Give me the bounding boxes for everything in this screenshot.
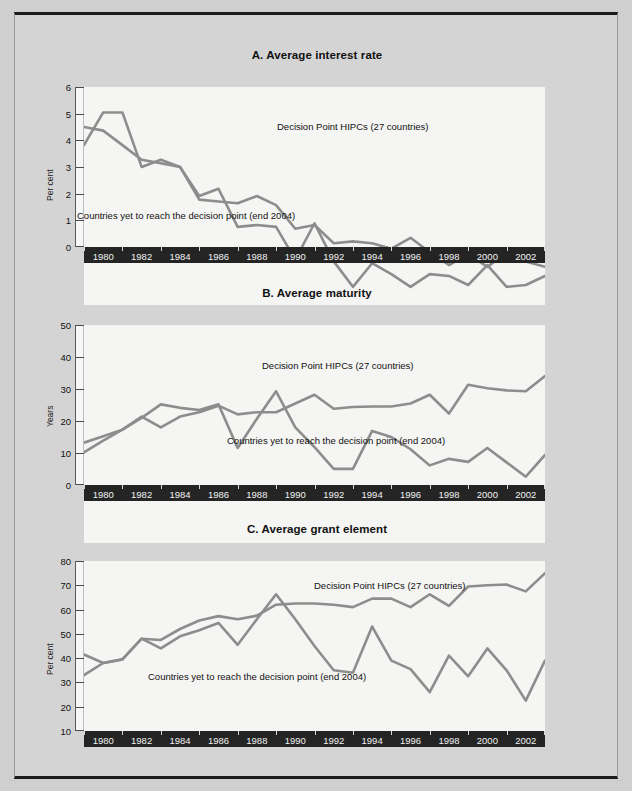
x-tick-mark	[122, 485, 123, 489]
series-line-1	[84, 112, 545, 266]
x-tick-label: 1992	[323, 489, 344, 500]
x-tick-label: 1996	[400, 489, 421, 500]
panel-b-title: B. Average maturity	[15, 287, 619, 299]
x-tick-label: 1982	[131, 735, 152, 746]
panel-b-y-axis	[75, 325, 84, 485]
x-tick-mark	[353, 485, 354, 489]
x-tick-label: 1988	[246, 489, 267, 500]
x-tick-label: 1988	[246, 735, 267, 746]
x-tick-label: 1980	[93, 489, 114, 500]
panel-c-note-top: Decision Point HIPCs (27 countries)	[314, 580, 466, 591]
y-tick-label: 20	[60, 416, 71, 427]
x-tick-label: 1982	[131, 489, 152, 500]
x-tick-mark	[161, 247, 162, 251]
x-tick-mark	[507, 247, 508, 251]
x-tick-mark	[391, 731, 392, 735]
x-tick-label: 1998	[438, 251, 459, 262]
x-tick-mark	[544, 485, 545, 489]
x-tick-mark	[276, 731, 277, 735]
y-tick-label: 70	[60, 580, 71, 591]
x-tick-mark	[391, 247, 392, 251]
x-tick-label: 1994	[362, 251, 383, 262]
x-tick-mark	[161, 485, 162, 489]
x-tick-mark	[199, 731, 200, 735]
y-tick-label: 10	[60, 448, 71, 459]
y-tick-label: 0	[66, 242, 71, 253]
y-tick-label: 40	[60, 352, 71, 363]
panel-c-y-axis	[75, 561, 84, 731]
x-tick-label: 1994	[362, 735, 383, 746]
x-tick-mark	[430, 731, 431, 735]
y-tick-label: 1	[66, 215, 71, 226]
panel-a-y-axis	[75, 87, 84, 247]
y-tick-label: 80	[60, 556, 71, 567]
x-tick-mark	[238, 247, 239, 251]
panel-b-x-axis: 1980198219841986198819901992199419961998…	[84, 485, 545, 501]
y-tick-label: 6	[66, 82, 71, 93]
y-tick-label: 30	[60, 677, 71, 688]
x-tick-mark	[315, 485, 316, 489]
x-tick-label: 2002	[515, 735, 536, 746]
x-tick-mark	[122, 731, 123, 735]
panel-c-title: C. Average grant element	[15, 523, 619, 535]
x-tick-mark	[507, 731, 508, 735]
x-tick-mark	[276, 485, 277, 489]
x-tick-label: 1998	[438, 735, 459, 746]
panel-b-note-bottom: Countries yet to reach the decision poin…	[227, 435, 445, 446]
x-tick-mark	[238, 731, 239, 735]
x-tick-label: 1986	[208, 735, 229, 746]
x-tick-mark	[391, 485, 392, 489]
x-tick-label: 1996	[400, 251, 421, 262]
y-tick-label: 30	[60, 384, 71, 395]
figure-container: A. Average interest rate Per cent 012345…	[14, 12, 618, 779]
x-tick-label: 1984	[169, 735, 190, 746]
panel-a-y-tick-labels: 0123456	[47, 87, 75, 247]
x-tick-mark	[161, 731, 162, 735]
x-tick-label: 1990	[285, 735, 306, 746]
x-tick-label: 1992	[323, 735, 344, 746]
x-tick-mark	[430, 485, 431, 489]
x-tick-label: 1996	[400, 735, 421, 746]
series-line-2	[84, 391, 545, 476]
x-tick-mark	[315, 731, 316, 735]
x-tick-mark	[84, 731, 85, 735]
y-tick-label: 10	[60, 726, 71, 737]
x-tick-label: 2002	[515, 489, 536, 500]
y-tick-label: 0	[66, 480, 71, 491]
y-tick-label: 60	[60, 604, 71, 615]
x-tick-mark	[84, 485, 85, 489]
panel-a-title: A. Average interest rate	[15, 49, 619, 61]
x-tick-label: 1984	[169, 489, 190, 500]
x-tick-mark	[199, 247, 200, 251]
y-tick-label: 40	[60, 653, 71, 664]
panel-c-note-bottom: Countries yet to reach the decision poin…	[148, 671, 366, 682]
x-tick-label: 2000	[477, 735, 498, 746]
panel-c-y-tick-labels: 1020304050607080	[47, 561, 75, 731]
panel-b-plot-area	[84, 325, 545, 543]
x-tick-label: 2002	[515, 251, 536, 262]
y-tick-label: 50	[60, 628, 71, 639]
y-tick-label: 2	[66, 188, 71, 199]
y-tick-label: 5	[66, 108, 71, 119]
x-tick-label: 2000	[477, 251, 498, 262]
x-tick-label: 1982	[131, 251, 152, 262]
x-tick-mark	[468, 485, 469, 489]
x-tick-mark	[507, 485, 508, 489]
panel-b-lines	[84, 325, 545, 543]
x-tick-mark	[353, 247, 354, 251]
x-tick-mark	[315, 247, 316, 251]
x-tick-label: 1994	[362, 489, 383, 500]
x-tick-mark	[468, 247, 469, 251]
series-line-2	[84, 594, 545, 700]
y-tick-label: 20	[60, 701, 71, 712]
panel-b: B. Average maturity Years 01020304050 19…	[15, 287, 619, 505]
panel-a-lines	[84, 87, 545, 305]
y-tick-label: 50	[60, 320, 71, 331]
x-tick-label: 1988	[246, 251, 267, 262]
panel-a-note-top: Decision Point HIPCs (27 countries)	[277, 121, 429, 132]
panel-a: A. Average interest rate Per cent 012345…	[15, 49, 619, 267]
x-tick-mark	[468, 731, 469, 735]
panel-a-note-bottom: Countries yet to reach the decision poin…	[77, 210, 295, 221]
x-tick-label: 1992	[323, 251, 344, 262]
panel-c-x-axis: 1980198219841986198819901992199419961998…	[84, 731, 545, 747]
